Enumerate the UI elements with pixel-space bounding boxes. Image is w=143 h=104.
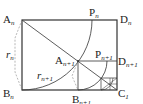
r-n-bracket (15, 20, 22, 90)
label-p-n1: Pn+1 (95, 48, 113, 62)
label-c-1: C1 (118, 87, 129, 101)
arc-n1 (78, 61, 107, 90)
label-a-n: An (3, 13, 15, 27)
label-b-n: Bn (3, 87, 14, 101)
label-d-n: Dn (120, 13, 132, 27)
label-b-n1: Bn+1 (72, 93, 91, 104)
point-a-n1 (77, 60, 79, 62)
label-r-n1: rn+1 (37, 69, 53, 83)
label-d-n1: Dn+1 (118, 55, 138, 69)
label-p-n: Pn (89, 6, 99, 20)
label-a-n1: An+1 (55, 54, 75, 68)
label-r-n: rn (6, 48, 14, 62)
geometry-diagram: An Bn C1 Dn Pn An+1 Bn+1 Dn+1 Pn+1 rn rn… (0, 0, 143, 104)
